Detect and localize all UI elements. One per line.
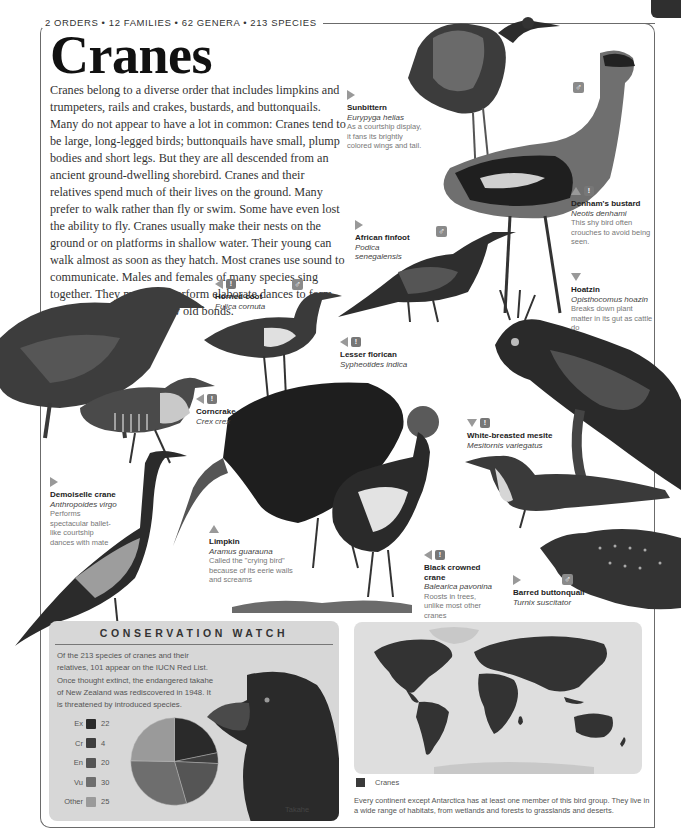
latin-name: Balearica pavonina: [424, 582, 494, 592]
male-symbol-icon: ♂: [562, 574, 573, 585]
male-symbol-icon: ♂: [436, 226, 447, 237]
common-name: Demoiselle crane: [50, 490, 120, 500]
common-name: Limpkin: [209, 537, 304, 547]
latin-name: Turnix suscitator: [513, 598, 593, 608]
map-caption: Every continent except Antarctica has at…: [354, 796, 654, 816]
pointer-down-icon: [467, 419, 477, 427]
latin-name: Neotis denhami: [571, 209, 656, 219]
status-vulnerable-icon: !: [435, 550, 445, 560]
pointer-left-icon: [340, 337, 348, 347]
divider: [55, 644, 333, 645]
status-vulnerable-icon: !: [480, 418, 490, 428]
species-label-denhams-bustard: ! Denham's bustard Neotis denhami This s…: [571, 186, 656, 247]
status-near-threatened-icon: !: [226, 279, 236, 289]
common-name: Black crowned crane: [424, 563, 494, 582]
status-endangered-icon: !: [351, 337, 361, 347]
common-name: African finfoot: [355, 233, 415, 243]
legend-row-ex: Ex 22: [55, 714, 119, 734]
legend-value: 4: [101, 739, 119, 748]
conservation-title: CONSERVATION WATCH: [49, 627, 339, 639]
latin-name: Fulica cornuta: [215, 302, 295, 312]
chapter-tab: [651, 0, 681, 18]
legend-row-vu: Vu 30: [55, 773, 119, 793]
other-status-icon: [86, 797, 96, 807]
world-map: [354, 622, 642, 774]
male-symbol-icon: ♂: [573, 82, 584, 93]
vulnerable-icon: [86, 777, 96, 787]
legend-code: Ex: [74, 719, 83, 728]
species-label-limpkin: Limpkin Aramus guarauna Called the "cryi…: [209, 524, 304, 585]
distribution-map: [354, 622, 642, 774]
pie-slice-other: [131, 718, 175, 762]
latin-name: Opisthocomus hoazin: [571, 295, 671, 305]
map-legend: Cranes: [356, 778, 399, 787]
species-label-demoiselle-crane: Demoiselle crane Anthropoides virgo Perf…: [50, 477, 120, 547]
pointer-right-icon: [347, 90, 355, 100]
latin-name: Anthropoides virgo: [50, 500, 120, 510]
legend-code: Cr: [75, 739, 83, 748]
status-near-threatened-icon: !: [207, 394, 217, 404]
latin-name: Sypheotides indica: [340, 360, 420, 370]
legend-value: 22: [101, 719, 119, 728]
legend-row-en: En 20: [55, 753, 119, 773]
common-name: Barred buttonquail: [513, 588, 593, 598]
common-name: Denham's bustard: [571, 199, 656, 209]
takahe-label: Takahe: [285, 805, 309, 814]
legend-code: En: [74, 758, 83, 767]
page-title: Cranes: [50, 24, 212, 86]
legend-value: 20: [101, 758, 119, 767]
species-label-barred-buttonquail: Barred buttonquail Turnix suscitator: [513, 575, 593, 607]
species-label-white-breasted-mesite: ! White-breasted mesite Mesitornis varie…: [467, 418, 567, 450]
common-name: Horned coot: [215, 292, 295, 302]
common-name: Sunbittern: [347, 103, 427, 113]
pointer-left-icon: [215, 279, 223, 289]
pointer-right-icon: [355, 220, 363, 230]
species-description: Performs spectacular ballet-like courtsh…: [50, 509, 120, 547]
takahe-illustration: [207, 665, 339, 821]
common-name: Hoatzin: [571, 285, 671, 295]
latin-name: Mesitornis variegatus: [467, 441, 567, 451]
pointer-left-icon: [424, 550, 432, 560]
male-symbol-icon: ♂: [292, 279, 303, 290]
species-description: As a courtship display, it fans its brig…: [347, 122, 427, 151]
endangered-icon: [86, 758, 96, 768]
map-legend-label: Cranes: [375, 778, 399, 787]
latin-name: Aramus guarauna: [209, 547, 304, 557]
status-legend: Ex 22 Cr 4 En 20 Vu 30 Other 25: [55, 714, 119, 812]
latin-name: Eurypyga helias: [347, 113, 427, 123]
species-description: Roosts in trees, unlike most other crane…: [424, 592, 494, 621]
conservation-text: Of the 213 species of cranes and their r…: [57, 650, 217, 711]
species-label-hoatzin: Hoatzin Opisthocomus hoazin Breaks down …: [571, 272, 671, 333]
pointer-up-icon: [209, 525, 219, 533]
pointer-left-icon: [196, 394, 204, 404]
species-label-lesser-florican: ! Lesser florican Sypheotides indica: [340, 337, 420, 369]
species-label-sunbittern: Sunbittern Eurypyga helias As a courtshi…: [347, 90, 427, 151]
pointer-right-icon: [50, 477, 58, 487]
latin-name: Crex crex: [196, 417, 246, 427]
legend-code: Vu: [74, 778, 83, 787]
legend-value: 25: [101, 797, 119, 806]
conservation-watch-panel: CONSERVATION WATCH Of the 213 species of…: [49, 621, 339, 821]
species-description: Breaks down plant matter in its gut as c…: [571, 304, 656, 333]
common-name: White-breasted mesite: [467, 431, 567, 441]
legend-row-cr: Cr 4: [55, 734, 119, 754]
species-description: This shy bird often crouches to avoid be…: [571, 218, 656, 247]
cranes-range-swatch: [356, 778, 365, 787]
pointer-right-icon: [513, 575, 521, 585]
status-near-threatened-icon: !: [584, 186, 594, 196]
extinct-icon: [86, 719, 96, 729]
legend-row-other: Other 25: [55, 792, 119, 812]
species-label-horned-coot: ! Horned coot Fulica cornuta: [215, 279, 295, 311]
pointer-up-icon: [571, 187, 581, 195]
pointer-down-icon: [571, 273, 581, 281]
legend-value: 30: [101, 778, 119, 787]
barred-buttonquail-illustration: [540, 518, 681, 628]
species-label-corncrake: ! Corncrake Crex crex: [196, 394, 246, 426]
latin-name: Podica senegalensis: [355, 243, 400, 262]
species-label-black-crowned-crane: ! Black crowned crane Balearica pavonina…: [424, 550, 494, 620]
common-name: Lesser florican: [340, 350, 420, 360]
vegetation-illustration: [232, 585, 412, 615]
common-name: Corncrake: [196, 407, 246, 417]
critically-endangered-icon: [86, 738, 96, 748]
legend-code: Other: [64, 797, 83, 806]
